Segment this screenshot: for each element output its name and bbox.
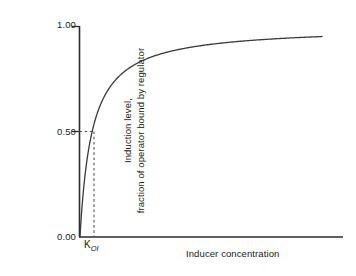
chart-figure: Induction level, fraction of operator bo… <box>0 0 356 276</box>
plot-canvas <box>0 0 356 276</box>
saturation-curve <box>80 37 322 237</box>
